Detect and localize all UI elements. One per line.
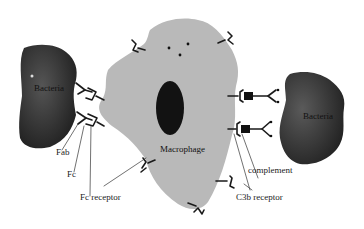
nucleus [156,81,184,135]
granule [179,54,182,57]
complement-icon [241,125,250,133]
bacteria-right-label: Bacteria [303,112,333,121]
bacterium-spot [31,75,34,78]
complement-label: complement [248,166,293,175]
bacterium-left [19,45,77,148]
granule [168,47,171,50]
antibody-fc-receptor-lower [77,112,104,126]
fc-receptor-label: Fc receptor [80,193,121,202]
macrophage-label: Macrophage [160,145,205,154]
complement-icon [244,92,253,100]
antibody-fc-receptor-upper [76,83,104,100]
bacteria-left-label: Bacteria [34,84,64,93]
c3b-receptor-label: C3b receptor [236,193,283,202]
fab-label: Fab [56,148,70,157]
granule [187,43,190,46]
diagram-canvas: Bacteria Bacteria Macrophage Fab Fc Fc r… [0,0,364,229]
fc-label: Fc [67,170,76,179]
